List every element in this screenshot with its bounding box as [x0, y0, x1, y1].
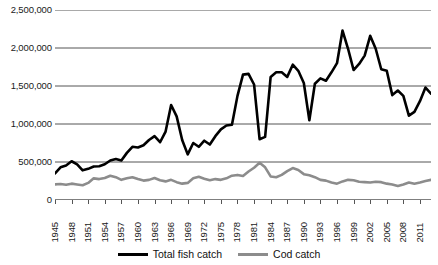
- x-tick-mark: [370, 200, 371, 204]
- x-tick-label: 1954: [99, 222, 109, 242]
- x-tick-label: 1999: [348, 222, 358, 242]
- series-line-cod-catch: [55, 163, 431, 186]
- x-tick-mark: [121, 200, 122, 204]
- x-tick-label: 2011: [414, 222, 424, 242]
- gridlines: [55, 10, 431, 200]
- x-tick-label: 1975: [215, 222, 225, 242]
- x-tick-label: 1945: [50, 222, 60, 242]
- x-tick-label: 1978: [232, 222, 242, 242]
- x-tick-mark: [271, 200, 272, 204]
- series-lines: [55, 31, 431, 186]
- x-tick-label: 1948: [66, 222, 76, 242]
- legend-color-swatch: [238, 253, 268, 256]
- x-tick-label: 1966: [166, 222, 176, 242]
- series-line-total-fish-catch: [55, 31, 431, 174]
- x-tick-label: 1951: [83, 222, 93, 242]
- legend-color-swatch: [118, 253, 148, 256]
- x-tick-mark: [337, 200, 338, 204]
- x-tick-mark: [155, 200, 156, 204]
- x-tick-mark: [403, 200, 404, 204]
- x-tick-label: 2002: [365, 222, 375, 242]
- legend-item[interactable]: Cod catch: [238, 248, 320, 260]
- x-tick-mark: [72, 200, 73, 204]
- x-tick-mark: [320, 200, 321, 204]
- x-tick-label: 1957: [116, 222, 126, 242]
- x-tick-mark: [138, 200, 139, 204]
- legend-item[interactable]: Total fish catch: [118, 248, 222, 260]
- x-tick-label: 1972: [199, 222, 209, 242]
- x-tick-label: 1960: [132, 222, 142, 242]
- x-tick-mark: [387, 200, 388, 204]
- x-tick-mark: [287, 200, 288, 204]
- legend-label: Cod catch: [273, 248, 320, 260]
- plot-area: [55, 10, 431, 200]
- x-tick-label: 1981: [249, 222, 259, 242]
- x-tick-mark: [420, 200, 421, 204]
- x-tick-label: 2005: [381, 222, 391, 242]
- x-tick-mark: [88, 200, 89, 204]
- x-axis: 1945194819511954195719601963196619691972…: [55, 200, 431, 245]
- x-tick-label: 1963: [149, 222, 159, 242]
- x-tick-mark: [221, 200, 222, 204]
- x-tick-label: 2008: [398, 222, 408, 242]
- x-tick-mark: [204, 200, 205, 204]
- x-tick-mark: [171, 200, 172, 204]
- y-tick-label: 1,500,000: [11, 81, 52, 91]
- x-tick-mark: [254, 200, 255, 204]
- x-tick-mark: [188, 200, 189, 204]
- x-tick-mark: [354, 200, 355, 204]
- x-tick-label: 1990: [298, 222, 308, 242]
- x-tick-label: 1969: [182, 222, 192, 242]
- chart-legend: Total fish catchCod catch: [0, 243, 438, 265]
- x-tick-mark: [55, 200, 56, 204]
- x-tick-mark: [237, 200, 238, 204]
- y-tick-label: 2,000,000: [11, 43, 52, 53]
- y-tick-label: 2,500,000: [11, 5, 52, 15]
- x-tick-mark: [105, 200, 106, 204]
- x-tick-label: 1987: [282, 222, 292, 242]
- x-tick-label: 1993: [315, 222, 325, 242]
- x-tick-label: 1984: [265, 222, 275, 242]
- x-tick-mark: [304, 200, 305, 204]
- y-axis: 0500,0001,000,0001,500,0002,000,0002,500…: [0, 0, 52, 265]
- plot-svg: [55, 10, 431, 200]
- fish-catch-line-chart: 0500,0001,000,0001,500,0002,000,0002,500…: [0, 0, 438, 265]
- x-tick-label: 1996: [332, 222, 342, 242]
- y-tick-label: 500,000: [18, 157, 52, 167]
- y-tick-label: 0: [47, 195, 52, 205]
- legend-label: Total fish catch: [153, 248, 222, 260]
- y-tick-label: 1,000,000: [11, 119, 52, 129]
